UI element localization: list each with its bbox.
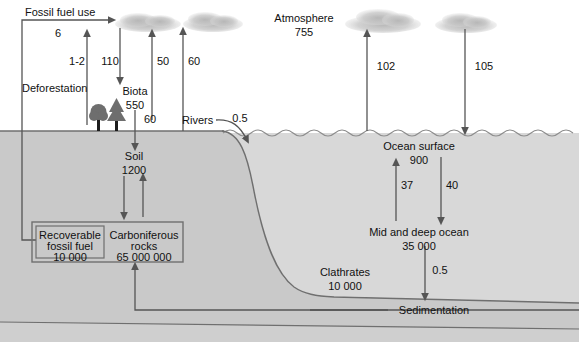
label-biota: Biota [122, 85, 147, 97]
diagram-canvas [0, 0, 579, 342]
value-recoverable-fossil-fuel: 10 000 [53, 251, 87, 263]
label-atmosphere: Atmosphere [274, 12, 333, 24]
value-soil-respiration: 60 [188, 55, 200, 67]
value-ocean-surface: 900 [410, 154, 428, 166]
cloud-4 [435, 13, 497, 33]
label-mid-deep-ocean: Mid and deep ocean [369, 226, 469, 238]
label-soil: Soil [125, 150, 143, 162]
value-biota: 550 [126, 99, 144, 111]
tree-conifer-icon [107, 98, 126, 131]
value-plant-respiration: 50 [157, 55, 169, 67]
tree-deciduous-icon [89, 104, 108, 131]
value-clathrates: 10 000 [328, 280, 362, 292]
carbon-cycle-diagram: Fossil fuel use 6 Deforestation 1-2 110 … [0, 0, 579, 342]
value-atmosphere: 755 [295, 26, 313, 38]
cloud-3 [345, 9, 421, 33]
value-litterfall: 60 [144, 113, 156, 125]
value-downwelling: 40 [446, 179, 458, 191]
value-mid-deep-ocean: 35 000 [402, 240, 436, 252]
value-fossil-fuel-use: 6 [55, 27, 61, 39]
value-ocean-to-atmosphere: 102 [377, 60, 395, 72]
value-atmosphere-to-ocean: 105 [475, 60, 493, 72]
value-carboniferous-rocks: 65 000 000 [116, 251, 171, 263]
value-deforestation: 1-2 [69, 55, 85, 67]
value-soil: 1200 [122, 164, 146, 176]
value-carbon-burial: 0.5 [432, 264, 447, 276]
label-clathrates: Clathrates [320, 266, 370, 278]
value-photosynthesis: 110 [101, 55, 119, 67]
value-upwelling: 37 [401, 179, 413, 191]
label-rivers: Rivers [182, 114, 213, 126]
label-fossil-fuel-use: Fossil fuel use [25, 6, 95, 18]
label-sedimentation: Sedimentation [399, 304, 469, 316]
label-deforestation: Deforestation [22, 82, 87, 94]
label-ocean-surface: Ocean surface [383, 140, 455, 152]
cloud-1 [115, 13, 181, 32]
cloud-2 [183, 12, 243, 32]
value-rivers: 0.5 [232, 112, 247, 124]
